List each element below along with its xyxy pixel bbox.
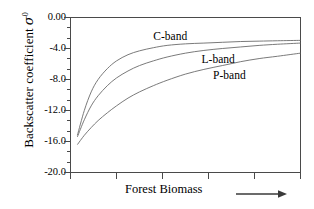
- chart-figure: Backscatter coefficient σ0 0.00-4.0-8.0-…: [0, 0, 314, 209]
- series-curve-p-band: [77, 53, 300, 144]
- series-label-l-band: L-band: [202, 53, 235, 65]
- x-axis-title: Forest Biomass: [125, 182, 202, 197]
- x-axis-arrow-icon: [236, 188, 288, 200]
- series-label-c-band: C-band: [153, 30, 187, 42]
- series-label-p-band: P-band: [213, 69, 246, 81]
- series-curve-c-band: [77, 40, 300, 135]
- curves-group: [77, 40, 300, 144]
